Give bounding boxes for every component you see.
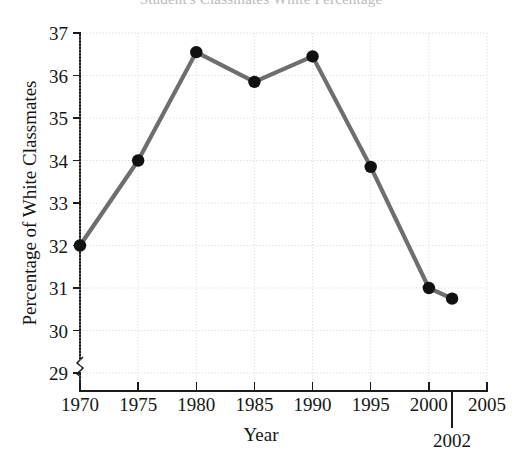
y-axis-tick (73, 287, 81, 288)
y-axis-tick (73, 202, 81, 203)
y-axis-tick (73, 245, 81, 246)
data-point (132, 154, 144, 166)
y-axis-tick-label: 36 (26, 67, 68, 86)
x-axis-tick (370, 382, 371, 391)
x-axis-tick (312, 382, 313, 391)
x-axis-line (79, 390, 488, 392)
y-axis-tick (73, 32, 81, 33)
annotation-label-2002: 2002 (416, 430, 488, 452)
y-axis-tick-label: 33 (26, 194, 68, 213)
y-axis-tick-label: 34 (26, 152, 68, 171)
y-axis-tick-label: 37 (26, 24, 68, 43)
y-axis-tick (73, 160, 81, 161)
data-point (423, 282, 435, 294)
data-point (190, 46, 202, 58)
y-axis-tick-label: 29 (26, 364, 68, 383)
y-axis-tick (73, 75, 81, 76)
x-axis-tick (486, 382, 487, 391)
x-axis-tick (254, 382, 255, 391)
y-axis-tick (73, 117, 81, 118)
x-axis-tick (137, 382, 138, 391)
x-axis-tick (79, 382, 80, 391)
y-axis-tick-label: 35 (26, 109, 68, 128)
y-axis-tick (73, 330, 81, 331)
y-axis-tick-label: 30 (26, 322, 68, 341)
chart-figure: Student's Classmates White Percentage Pe… (0, 0, 522, 463)
x-axis-tick (196, 382, 197, 391)
plot-area (80, 33, 487, 390)
data-point (306, 50, 318, 62)
data-point (446, 292, 458, 304)
x-axis-tick-label: 2005 (452, 395, 522, 414)
data-point (248, 76, 260, 88)
chart-title: Student's Classmates White Percentage (0, 0, 522, 8)
y-axis-tick (73, 372, 81, 373)
y-axis-tick-label: 31 (26, 279, 68, 298)
data-series-line (80, 33, 487, 390)
y-axis-tick-label: 32 (26, 237, 68, 256)
data-point (365, 161, 377, 173)
x-axis-tick (428, 382, 429, 391)
